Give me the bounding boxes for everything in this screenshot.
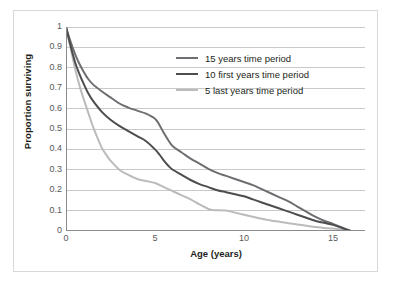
y-tick-label: 0.6: [32, 104, 62, 113]
x-tick-label: 15: [318, 234, 348, 243]
chart-legend: 15 years time period10 first years time …: [176, 50, 336, 98]
legend-color-swatch: [176, 89, 198, 91]
x-tick-label: 10: [229, 234, 259, 243]
y-tick-label: 0.1: [32, 206, 62, 215]
legend-label: 15 years time period: [205, 53, 291, 64]
chart-screenshot: Proportion surviving 00.10.20.30.40.50.6…: [0, 0, 394, 285]
legend-label: 10 first years time period: [205, 69, 309, 80]
x-axis-title: Age (years): [66, 248, 366, 259]
y-tick-label: 0.4: [32, 144, 62, 153]
x-tick-label: 5: [140, 234, 170, 243]
y-tick-label: 0.9: [32, 42, 62, 51]
legend-color-swatch: [176, 57, 198, 59]
y-tick-label: 0.7: [32, 83, 62, 92]
legend-item[interactable]: 15 years time period: [176, 50, 336, 66]
legend-item[interactable]: 5 last years time period: [176, 82, 336, 98]
legend-item[interactable]: 10 first years time period: [176, 66, 336, 82]
y-tick-label: 0.5: [32, 124, 62, 133]
y-tick-label: 0.8: [32, 63, 62, 72]
legend-color-swatch: [176, 73, 198, 75]
y-tick-label: 1: [32, 22, 62, 31]
y-tick-label: 0.2: [32, 185, 62, 194]
y-tick-label: 0.3: [32, 165, 62, 174]
x-tick-label: 0: [51, 234, 81, 243]
legend-label: 5 last years time period: [205, 85, 303, 96]
